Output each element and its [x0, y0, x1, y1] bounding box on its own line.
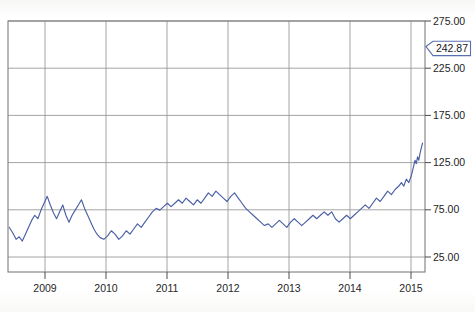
- ytick-label-225: 225.00: [433, 62, 465, 74]
- ytick-label-25: 25.00: [433, 251, 459, 263]
- ytick-label-175: 175.00: [433, 109, 465, 121]
- xtick-label-2010: 2010: [94, 282, 118, 294]
- xtick-label-2011: 2011: [156, 282, 179, 294]
- last-price-callout: 242.87: [426, 41, 471, 55]
- xtick-label-2013: 2013: [277, 282, 301, 294]
- xtick-label-2014: 2014: [338, 282, 362, 294]
- plot-area-background: [8, 21, 425, 272]
- callout-value: 242.87: [436, 42, 468, 54]
- ytick-label-275: 275.00: [433, 15, 465, 27]
- xtick-label-2015: 2015: [399, 282, 423, 294]
- stock-price-chart: 275.00 225.00 175.00 125.00 75.00 25.00 …: [0, 0, 475, 312]
- xtick-label-2012: 2012: [216, 282, 240, 294]
- x-axis-labels: 2009 2010 2011 2012 2013 2014 2015: [33, 282, 423, 294]
- xtick-label-2009: 2009: [33, 282, 57, 294]
- x-axis-ticks: [45, 272, 411, 279]
- ytick-label-125: 125.00: [433, 156, 465, 168]
- ytick-label-75: 75.00: [433, 203, 459, 215]
- chart-svg: 275.00 225.00 175.00 125.00 75.00 25.00 …: [0, 0, 475, 312]
- y-axis-ticks: [425, 21, 431, 257]
